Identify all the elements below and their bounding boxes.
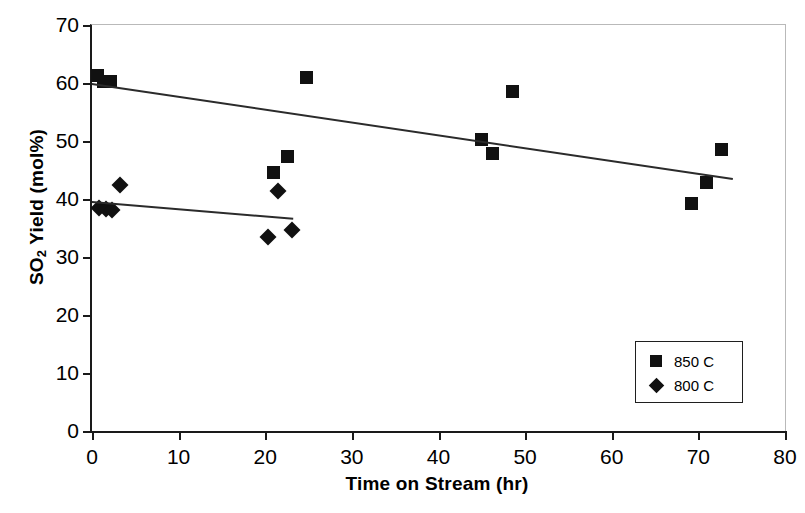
chart-figure: SO2 Yield (mol%) 010203040506070 0102030…: [0, 0, 805, 513]
x-axis-tick: [352, 431, 354, 440]
legend-item-label: 800 C: [674, 377, 714, 394]
data-point-square: [715, 143, 728, 156]
x-axis-tick-label: 80: [773, 445, 796, 469]
y-axis-tick-label: 30: [56, 245, 79, 269]
chart-legend: 850 C800 C: [635, 341, 743, 403]
y-axis-tick-label: 60: [56, 71, 79, 95]
y-axis-title-subscript: 2: [34, 250, 49, 257]
x-axis-tick: [698, 431, 700, 440]
y-axis-tick: [83, 315, 92, 317]
x-axis-tick: [785, 431, 787, 440]
y-axis-title-rest: Yield (mol%): [26, 129, 47, 250]
diamond-icon-shape: [648, 377, 664, 393]
x-axis-tick: [179, 431, 181, 440]
x-axis-tick-label: 50: [513, 445, 536, 469]
legend-item: 800 C: [645, 373, 714, 397]
data-point-square: [486, 147, 499, 160]
trendline: [92, 201, 293, 220]
data-point-square: [700, 176, 713, 189]
y-axis-tick-label: 50: [56, 129, 79, 153]
y-axis-tick: [83, 199, 92, 201]
x-axis-tick-label: 10: [167, 445, 190, 469]
data-point-square: [281, 150, 294, 163]
x-axis-tick-label: 0: [86, 445, 98, 469]
y-axis-tick-label: 10: [56, 361, 79, 385]
y-axis-tick: [83, 25, 92, 27]
y-axis-tick: [83, 431, 92, 433]
data-point-square: [685, 197, 698, 210]
y-axis-title-main: SO: [26, 257, 47, 285]
data-point-square: [267, 166, 280, 179]
y-axis-tick-label: 70: [56, 13, 79, 37]
x-axis-tick-label: 20: [254, 445, 277, 469]
y-axis-tick: [83, 257, 92, 259]
y-axis-tick: [83, 141, 92, 143]
data-point-square: [300, 71, 313, 84]
y-axis-tick-label: 0: [67, 419, 79, 443]
data-point-diamond: [111, 177, 128, 194]
y-axis-tick: [83, 373, 92, 375]
square-icon: [645, 355, 667, 367]
data-point-diamond: [284, 222, 301, 239]
x-axis-tick-label: 60: [600, 445, 623, 469]
square-icon-shape: [650, 355, 662, 367]
data-point-diamond: [259, 229, 276, 246]
y-axis-tick-label: 40: [56, 187, 79, 211]
trendline: [92, 83, 733, 180]
x-axis-tick: [265, 431, 267, 440]
diamond-icon: [645, 380, 667, 391]
data-point-diamond: [270, 183, 287, 200]
x-axis-tick-label: 30: [340, 445, 363, 469]
data-point-square: [506, 85, 519, 98]
x-axis-tick: [92, 431, 94, 440]
x-axis-tick: [525, 431, 527, 440]
y-axis-title: SO2 Yield (mol%): [26, 17, 48, 397]
x-axis-tick-label: 70: [687, 445, 710, 469]
legend-item: 850 C: [645, 349, 714, 373]
x-axis-title: Time on Stream (hr): [90, 473, 784, 495]
x-axis-tick: [612, 431, 614, 440]
x-axis-tick: [439, 431, 441, 440]
legend-item-label: 850 C: [674, 353, 714, 370]
x-axis-tick-label: 40: [427, 445, 450, 469]
y-axis-tick-label: 20: [56, 303, 79, 327]
